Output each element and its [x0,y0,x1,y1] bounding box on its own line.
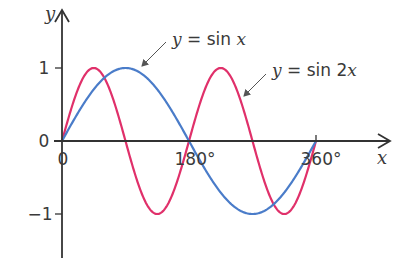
sine-graph: 1 0 −1 0 180° 360° y x y = sin x y = sin… [0,0,414,274]
annotation-arrow-sin-x [142,42,166,66]
x-axis-label: x [377,147,387,168]
y-tick-label-minus-1: −1 [27,204,52,224]
y-tick-label-1: 1 [39,58,50,78]
x-tick-label-360: 360° [301,149,342,169]
y-axis-label: y [44,3,56,24]
x-tick-label-180: 180° [175,149,216,169]
annotation-label-sin-x: y = sin x [171,29,246,49]
x-tick-label-0: 0 [58,149,69,169]
y-tick-label-0: 0 [39,131,50,151]
annotation-label-sin-2x: y = sin 2x [271,60,357,80]
annotation-arrow-sin-2x [244,74,266,96]
